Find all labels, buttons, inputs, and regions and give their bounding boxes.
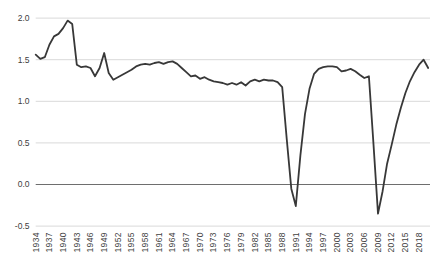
x-tick-label: 1952 (113, 232, 123, 253)
x-tick-label: 1937 (44, 232, 54, 253)
x-tick-label: 1958 (140, 232, 150, 253)
x-tick-label: 1997 (318, 232, 328, 253)
x-tick-label: 2009 (373, 232, 383, 253)
x-tick-label: 1988 (277, 232, 287, 253)
x-tick-label: 1985 (263, 232, 273, 253)
x-tick-label: 1979 (236, 232, 246, 253)
x-tick-label: 2015 (400, 232, 410, 253)
y-tick-label: 0.5 (18, 138, 30, 148)
x-tick-label: 1955 (126, 232, 136, 253)
x-tick-label: 1994 (304, 232, 314, 253)
x-tick-label: 2006 (359, 232, 369, 253)
x-tick-label: 2003 (345, 232, 355, 253)
x-tick-label: 1982 (250, 232, 260, 253)
x-tick-label: 1949 (99, 232, 109, 253)
x-tick-label: 2012 (386, 232, 396, 253)
x-tick-label: 1940 (58, 232, 68, 253)
y-tick-label: 2.0 (18, 13, 30, 23)
x-tick-label: 1976 (222, 232, 232, 253)
y-tick-label: 1.0 (18, 96, 30, 106)
x-tick-label: 1946 (85, 232, 95, 253)
y-tick-label: 0.0 (18, 179, 30, 189)
x-tick-label: 1967 (181, 232, 191, 253)
x-tick-label: 1943 (72, 232, 82, 253)
x-tick-label: 1973 (208, 232, 218, 253)
y-tick-label: 1.5 (18, 55, 30, 65)
x-tick-label: 2018 (414, 232, 424, 253)
x-tick-label: 1970 (195, 232, 205, 253)
x-tick-label: 1961 (154, 232, 164, 253)
x-tick-label: 2000 (332, 232, 342, 253)
x-tick-label: 1934 (31, 232, 41, 253)
chart-canvas: 2.01.51.00.50.0-0.5193419371940194319461… (0, 0, 440, 265)
y-tick-label: -0.5 (15, 221, 30, 231)
line-chart: 2.01.51.00.50.0-0.5193419371940194319461… (0, 0, 440, 265)
x-tick-label: 1964 (167, 232, 177, 253)
x-tick-label: 1991 (291, 232, 301, 253)
